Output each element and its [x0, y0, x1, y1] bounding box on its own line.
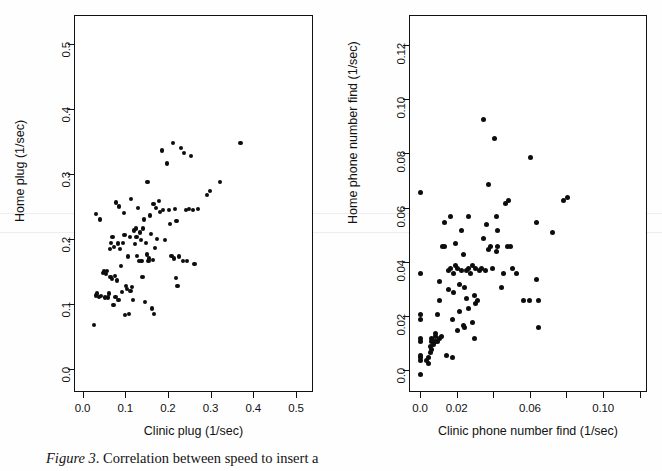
- scatter-point: [122, 211, 126, 215]
- scatter-point: [182, 151, 186, 155]
- scatter-point: [448, 214, 453, 219]
- scatter-point: [461, 252, 466, 257]
- y-axis-tick-label: 0.4: [60, 107, 72, 139]
- scatter-point: [144, 241, 148, 245]
- x-axis-tick-label: 0.5: [288, 402, 303, 414]
- scatter-point: [105, 269, 109, 273]
- x-axis-tick: [296, 392, 297, 398]
- scatter-point: [208, 189, 212, 193]
- scatter-point: [171, 141, 175, 145]
- scatter-point: [429, 347, 434, 352]
- scatter-point: [196, 207, 200, 211]
- scatter-point: [550, 230, 555, 235]
- scatter-point: [418, 312, 423, 317]
- scatter-point: [172, 256, 176, 260]
- scatter-point: [514, 271, 519, 276]
- scatter-point: [134, 235, 138, 239]
- scatter-point: [175, 284, 179, 288]
- scatter-point: [160, 148, 164, 152]
- scatter-point: [494, 214, 499, 219]
- scatter-point: [437, 298, 442, 303]
- scatter-point: [177, 254, 181, 258]
- scatter-point: [117, 204, 121, 208]
- scatter-point: [490, 266, 495, 271]
- scatter-point: [127, 312, 131, 316]
- scatter-point: [131, 298, 135, 302]
- y-axis-tick-label: 0.02: [395, 314, 407, 346]
- y-axis-tick-label: 0.1: [60, 302, 72, 334]
- scatter-point: [470, 320, 475, 325]
- y-axis-tick-label: 0.5: [60, 42, 72, 74]
- scatter-point: [145, 180, 149, 184]
- figure-caption-text-3: . Correlation between speed to insert a: [96, 450, 319, 466]
- scatter-point: [455, 328, 460, 333]
- scatter-point: [128, 289, 132, 293]
- figure-panel-3: 0.00.10.20.30.40.50.00.10.20.30.40.5 Hom…: [0, 0, 331, 471]
- scatter-point: [418, 271, 423, 276]
- scatter-point: [506, 198, 511, 203]
- scatter-point: [121, 241, 125, 245]
- scatter-point: [179, 146, 183, 150]
- scatter-point: [106, 295, 110, 299]
- x-axis-tick-label: 0.0: [412, 402, 427, 414]
- scatter-point: [173, 207, 177, 211]
- x-axis-tick-label: 0.0: [75, 402, 90, 414]
- scatter-point: [165, 161, 169, 165]
- scatter-point: [136, 206, 140, 210]
- scatter-point: [120, 290, 124, 294]
- y-axis-tick-label: 0.0: [60, 367, 72, 399]
- scatter-point: [129, 197, 133, 201]
- scatter-point: [161, 208, 165, 212]
- scatter-point: [119, 264, 123, 268]
- scatter-point: [118, 247, 122, 251]
- scatter-point: [218, 180, 222, 184]
- scatter-point: [508, 244, 513, 249]
- scatter-point: [116, 298, 120, 302]
- scatter-point: [448, 266, 453, 271]
- scatter-point: [141, 226, 145, 230]
- scatter-point: [135, 254, 139, 258]
- scatter-plot-area-figure-3: [75, 16, 312, 391]
- figure-panel-4: 0.00.020.040.060.080.100.120.00.020.060.…: [331, 0, 662, 471]
- y-axis-tick-label: 0.2: [60, 237, 72, 269]
- x-axis-tick-label: 0.4: [246, 402, 261, 414]
- scatter-point: [442, 220, 447, 225]
- scatter-point: [167, 208, 171, 212]
- scatter-point: [488, 244, 493, 249]
- plot-frame-figure-4: [409, 15, 647, 392]
- x-axis-tick: [603, 392, 604, 398]
- scatter-point: [92, 323, 96, 327]
- scatter-point: [142, 217, 146, 221]
- y-axis-tick-label: 0.06: [395, 206, 407, 238]
- scatter-point: [130, 285, 134, 289]
- scatter-point: [418, 190, 423, 195]
- scatter-point: [148, 213, 152, 217]
- x-axis-tick: [640, 392, 641, 398]
- scatter-point: [472, 293, 477, 298]
- y-axis-title-figure-4: Home phone number find (1/sec): [346, 180, 360, 224]
- scatter-point: [418, 372, 423, 377]
- scatter-point: [426, 355, 431, 360]
- y-axis-tick-label: 0.08: [395, 151, 407, 183]
- scatter-point: [189, 154, 193, 158]
- x-axis-tick: [83, 392, 84, 398]
- x-axis-tick: [566, 392, 567, 398]
- scatter-point: [143, 300, 147, 304]
- scatter-point: [495, 228, 500, 233]
- x-axis-title-figure-4: Clinic phone number find (1/sec): [438, 424, 618, 438]
- scatter-point: [138, 230, 142, 234]
- scatter-point: [510, 266, 515, 271]
- scatter-point: [565, 195, 570, 200]
- scatter-point: [418, 317, 423, 322]
- scatter-point: [134, 226, 138, 230]
- plot-frame-figure-3: [74, 15, 313, 392]
- scatter-point: [499, 285, 504, 290]
- x-axis-tick-label: 0.3: [203, 402, 218, 414]
- x-axis-tick: [530, 392, 531, 398]
- scatter-point: [439, 334, 444, 339]
- x-axis-title-figure-3: Clinic plug (1/sec): [144, 424, 243, 438]
- y-axis-tick-label: 0.3: [60, 172, 72, 204]
- y-axis-tick-label: 0.04: [395, 260, 407, 292]
- scatter-point: [153, 246, 157, 250]
- scatter-point: [168, 222, 172, 226]
